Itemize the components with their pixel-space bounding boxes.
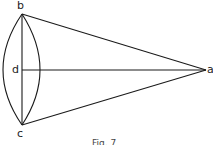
line-c-apex bbox=[22, 70, 206, 125]
figure-caption: Fig. 7 bbox=[92, 139, 116, 145]
label-b: b bbox=[17, 0, 24, 11]
line-b-apex bbox=[22, 14, 206, 70]
cone-lens-diagram bbox=[0, 0, 213, 145]
label-d: d bbox=[12, 64, 19, 75]
label-apex: a bbox=[207, 64, 213, 75]
label-c: c bbox=[17, 128, 23, 139]
